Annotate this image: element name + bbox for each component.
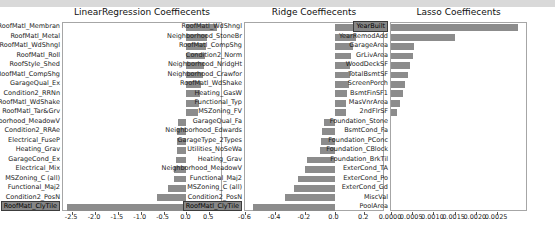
y-axis-labels: YearBuiltYearRemodAddGarageAreaGrLivArea… <box>238 22 388 211</box>
bar-GarageArea <box>391 43 414 50</box>
x-axis-labels: 0.00000.00050.00100.00150.00200.0025 <box>390 211 527 223</box>
ytick-label-YearRemodAdd: YearRemodAdd <box>339 32 388 41</box>
ytick-label-ExterCond_Po: ExterCond_Po <box>343 174 388 183</box>
ytick-label-ScreenPorch: ScreenPorch <box>348 79 388 88</box>
plot-area <box>390 22 527 211</box>
ytick-label-ExterCond_TA: ExterCond_TA <box>343 164 388 173</box>
ytick-label-GrLivArea: GrLivArea <box>356 51 388 60</box>
lasso-chart: Lasso Coeffiecents YearBuiltYearRemodAdd… <box>0 0 555 238</box>
x-tick-label: 0.0000 <box>379 213 402 221</box>
x-tick-label: 0.0010 <box>421 213 444 221</box>
ytick-label-YearBuilt: YearBuilt <box>353 21 388 32</box>
ytick-label-GarageArea: GarageArea <box>349 41 388 50</box>
ytick-label-MiscVal: MiscVal <box>364 193 388 202</box>
ytick-label-2ndFlrSF: 2ndFlrSF <box>360 107 388 116</box>
x-tick-label: 0.0020 <box>463 213 486 221</box>
bar-GrLivArea <box>391 53 413 60</box>
x-tick-label: 0.0025 <box>485 213 508 221</box>
bar-ScreenPorch <box>391 81 405 88</box>
ytick-label-TotalBsmtSF: TotalBsmtSF <box>348 70 388 79</box>
bar-BsmtFinSF1 <box>391 90 403 97</box>
bar-TotalBsmtSF <box>391 72 408 79</box>
ytick-label-Foundation_CBlock: Foundation_CBlock <box>326 145 388 154</box>
bar-WoodDeckSF <box>391 62 410 69</box>
x-tick-label: 0.0015 <box>442 213 465 221</box>
bar-YearRemodAdd <box>391 34 455 41</box>
bar-MasVnrArea <box>391 100 400 107</box>
ytick-label-BsmtCond_Fa: BsmtCond_Fa <box>344 126 388 135</box>
bar-YearBuilt <box>391 24 518 31</box>
bar-2ndFlrSF <box>391 109 397 116</box>
x-tick-label: 0.0005 <box>400 213 423 221</box>
ytick-label-WoodDeckSF: WoodDeckSF <box>346 60 388 69</box>
ytick-label-BsmtFinSF1: BsmtFinSF1 <box>350 89 388 98</box>
ytick-label-Foundation_Stone: Foundation_Stone <box>330 117 388 126</box>
ytick-label-PoolArea: PoolArea <box>360 202 388 211</box>
ytick-label-ExterCond_Gd: ExterCond_Gd <box>342 183 388 192</box>
coefficient-charts-figure: LinearRegression Coeffiecents RoofMatl_M… <box>0 0 555 238</box>
chart-title: Lasso Coeffiecents <box>390 7 527 18</box>
ytick-label-MasVnrArea: MasVnrArea <box>349 98 388 107</box>
ytick-label-Foundation_BrkTil: Foundation_BrkTil <box>330 155 388 164</box>
ytick-label-Foundation_PConc: Foundation_PConc <box>328 136 388 145</box>
